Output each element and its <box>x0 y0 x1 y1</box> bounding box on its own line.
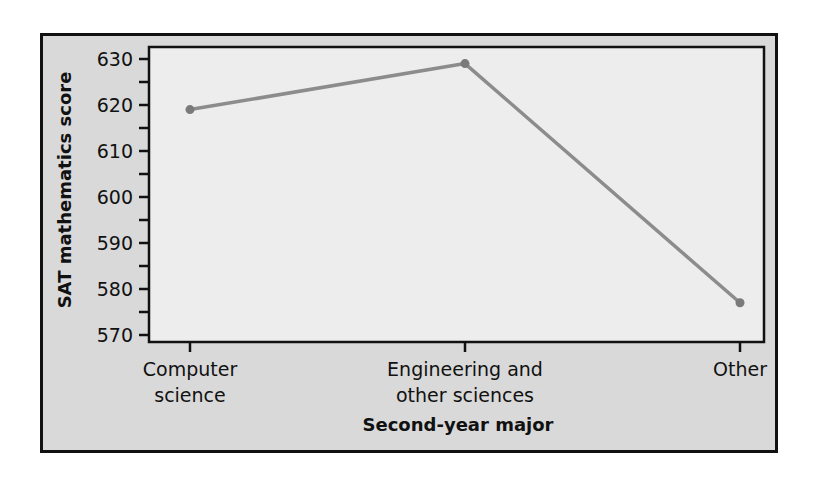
y-tick-label: 570 <box>97 324 133 346</box>
y-tick-label: 590 <box>97 232 133 254</box>
plot-area <box>149 47 764 342</box>
y-tick-label: 610 <box>97 140 133 162</box>
y-tick-label: 630 <box>97 48 133 70</box>
data-point-marker <box>461 59 470 68</box>
chart-container: 570580590600610620630 ComputerscienceEng… <box>0 0 814 480</box>
x-axis-title: Second-year major <box>363 414 554 435</box>
x-category-label: Other <box>713 358 767 380</box>
x-category-label: Computer <box>143 358 238 380</box>
y-axis-title: SAT mathematics score <box>54 72 75 309</box>
x-category-label: Engineering and <box>387 358 543 380</box>
y-tick-label: 600 <box>97 186 133 208</box>
y-tick-label: 620 <box>97 94 133 116</box>
x-category-label: other sciences <box>396 384 534 406</box>
data-point-marker <box>736 298 745 307</box>
line-chart: 570580590600610620630 ComputerscienceEng… <box>0 0 814 480</box>
data-point-marker <box>186 105 195 114</box>
x-category-label: science <box>154 384 226 406</box>
y-tick-label: 580 <box>97 278 133 300</box>
